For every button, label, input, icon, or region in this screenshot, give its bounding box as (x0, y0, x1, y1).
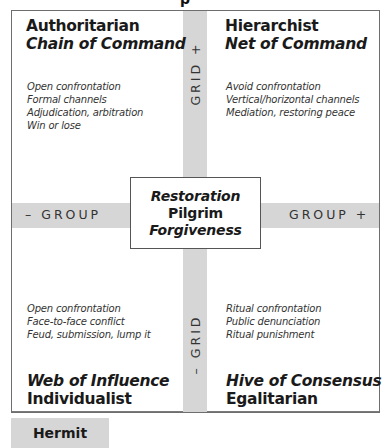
list-item: Mediation, restoring peace (226, 106, 359, 119)
quadrant-hierarchist-list: Avoid confrontation Vertical/horizontal … (226, 80, 359, 119)
quadrant-authoritarian-list: Open confrontation Formal channels Adjud… (27, 80, 143, 132)
hermit-label: Hermit (33, 425, 87, 441)
quadrant-subtitle: Net of Command (225, 35, 367, 53)
center-line-pilgrim: Pilgrim (168, 205, 223, 222)
group-plus-label: GROUP + (289, 207, 369, 222)
quadrant-hierarchist: Hierarchist Net of Command (225, 17, 367, 53)
cropped-title-fragment: p (180, 0, 190, 7)
list-item: Ritual punishment (226, 328, 321, 341)
quadrant-title: Individualist (27, 390, 169, 408)
list-item: Feud, submission, lump it (27, 328, 150, 341)
group-minus-label: – GROUP (25, 207, 101, 222)
list-item: Open confrontation (27, 302, 150, 315)
quadrant-title: Egalitarian (226, 390, 381, 408)
quadrant-title: Authoritarian (26, 17, 186, 35)
center-line-restoration: Restoration (151, 188, 240, 205)
quadrant-subtitle: Web of Influence (27, 372, 169, 390)
quadrant-individualist: Web of Influence Individualist (27, 372, 169, 408)
list-item: Open confrontation (27, 80, 143, 93)
quadrant-authoritarian: Authoritarian Chain of Command (26, 17, 186, 53)
list-item: Formal channels (27, 93, 143, 106)
quadrant-subtitle: Hive of Consensus (226, 372, 381, 390)
list-item: Adjudication, arbitration (27, 106, 143, 119)
quadrant-individualist-list: Open confrontation Face-to-face conflict… (27, 302, 150, 341)
hermit-box: Hermit (11, 418, 109, 448)
grid-minus-label: – GRID (188, 310, 203, 380)
quadrant-egalitarian: Hive of Consensus Egalitarian (226, 372, 381, 408)
list-item: Ritual confrontation (226, 302, 321, 315)
quadrant-subtitle: Chain of Command (26, 35, 186, 53)
quadrant-egalitarian-list: Ritual confrontation Public denunciation… (226, 302, 321, 341)
list-item: Public denunciation (226, 315, 321, 328)
list-item: Win or lose (27, 119, 143, 132)
list-item: Avoid confrontation (226, 80, 359, 93)
quadrant-title: Hierarchist (225, 17, 367, 35)
list-item: Vertical/horizontal channels (226, 93, 359, 106)
center-line-forgiveness: Forgiveness (149, 222, 241, 239)
list-item: Face-to-face conflict (27, 315, 150, 328)
grid-plus-label: GRID + (188, 39, 203, 109)
center-restoration-box: Restoration Pilgrim Forgiveness (130, 177, 261, 249)
